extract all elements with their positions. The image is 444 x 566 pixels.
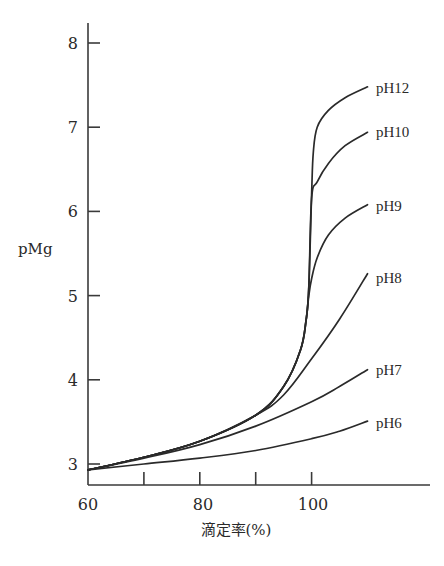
x-tick-label-100: 100	[298, 495, 329, 514]
y-tick-label-6: 6	[68, 202, 78, 221]
y-tick-label-5: 5	[68, 287, 78, 306]
y-tick-label-7: 7	[68, 118, 78, 137]
series-label-ph10: pH10	[376, 124, 409, 140]
curves	[88, 87, 368, 470]
y-tick-label-8: 8	[68, 34, 78, 53]
curve-ph10	[88, 132, 368, 470]
series-label-ph8: pH8	[376, 270, 402, 286]
x-tick-label-80: 80	[193, 495, 213, 514]
x-axis	[88, 472, 430, 485]
y-axis	[88, 23, 100, 485]
x-tick-label-60: 60	[78, 495, 98, 514]
y-tick-labels: 3 4 5 6 7 8	[68, 34, 78, 474]
curve-ph8	[88, 274, 368, 470]
series-label-ph9: pH9	[376, 198, 402, 214]
series-labels: pH12 pH10 pH9 pH8 pH7 pH6	[376, 80, 409, 431]
series-label-ph6: pH6	[376, 415, 402, 431]
y-axis-title: pMg	[18, 240, 53, 258]
curve-ph6	[88, 421, 368, 470]
x-axis-title: 滴定率(%)	[201, 521, 272, 539]
titration-chart: 3 4 5 6 7 8 60 80 100 pMg 滴定率(%) pH12 pH…	[0, 0, 444, 566]
y-tick-label-3: 3	[68, 455, 78, 474]
series-label-ph12: pH12	[376, 80, 409, 96]
curve-ph12	[88, 87, 368, 470]
x-tick-labels: 60 80 100	[78, 495, 328, 514]
series-label-ph7: pH7	[376, 362, 402, 378]
y-tick-label-4: 4	[68, 371, 78, 390]
